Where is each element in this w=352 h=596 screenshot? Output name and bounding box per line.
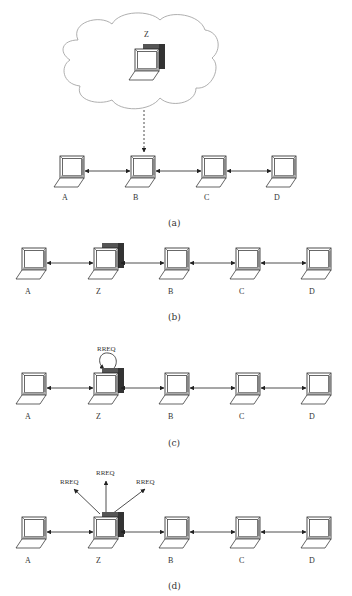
node-label: D [309,412,315,421]
node-label: Z [96,287,101,296]
rreq-label: RREQ [97,345,116,353]
panel-c: RREQ A Z B C D (c) [16,345,331,448]
node-label: B [168,287,173,296]
laptop-icon-a [16,517,46,548]
laptop-icon-z [88,243,124,279]
laptop-icon-c [230,517,260,548]
node-label: B [133,193,138,202]
laptop-icon-d [301,373,331,404]
node-label: Z [96,412,101,421]
laptop-icon-z [88,368,124,404]
node-label: A [25,556,31,565]
rreq-label-up: RREQ [96,469,115,477]
node-label: D [309,287,315,296]
broadcast-arrow-left [74,489,100,514]
node-label: C [239,556,244,565]
laptop-icon-z [88,512,124,548]
caption-c: (c) [168,438,180,448]
node-label: D [274,193,280,202]
laptop-icon-a [16,373,46,404]
laptop-icon-b [159,373,189,404]
laptop-icon-d [266,156,296,187]
laptop-icon-d [301,517,331,548]
node-label: C [239,287,244,296]
node-label: B [168,556,173,565]
node-label: D [309,556,315,565]
caption-b: (b) [168,312,181,322]
node-label: A [62,193,68,202]
rreq-label-left: RREQ [60,478,79,486]
panel-d: RREQ RREQ RREQ A Z B C D (d) [16,469,331,591]
caption-d: (d) [168,581,181,591]
node-label-z: Z [144,30,149,39]
laptop-icon-b [159,248,189,279]
laptop-icon-a [16,248,46,279]
network-diagram: Z A B C D (a) A Z B C D (b) [0,0,352,596]
panel-a: Z A B C D (a) [54,13,296,228]
node-label: Z [96,556,101,565]
node-label: B [168,412,173,421]
laptop-icon-c [230,248,260,279]
broadcast-arrow-right [112,489,145,514]
panel-b: A Z B C D (b) [16,243,331,322]
laptop-icon-a [54,156,84,187]
node-label: A [25,287,31,296]
node-label: C [204,193,209,202]
rreq-label-right: RREQ [136,478,155,486]
laptop-icon-b [125,156,155,187]
node-label: C [239,412,244,421]
self-loop-arrow [100,353,117,369]
laptop-icon-c [230,373,260,404]
node-label: A [25,412,31,421]
laptop-icon-d [301,248,331,279]
laptop-icon-b [159,517,189,548]
laptop-icon-c [196,156,226,187]
caption-a: (a) [168,218,180,228]
